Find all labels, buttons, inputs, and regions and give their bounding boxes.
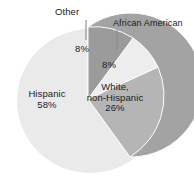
slice-label-other: Other	[55, 7, 79, 18]
slice-label-white-non-hispanic: White, non-Hispanic 26%	[84, 82, 146, 114]
slice-label-white-line1: White,	[84, 82, 146, 93]
slice-label-hispanic-line1: Hispanic	[18, 89, 76, 100]
pie-chart: Other African American 8% 8% White, non-…	[0, 0, 194, 180]
slice-value-african-american: 8%	[95, 60, 123, 71]
slice-label-hispanic: Hispanic 58%	[18, 89, 76, 110]
slice-value-other: 8%	[68, 44, 96, 55]
slice-value-white-non-hispanic: 26%	[84, 103, 146, 114]
slice-label-african-american: African American	[113, 18, 183, 29]
slice-value-hispanic: 58%	[18, 100, 76, 111]
